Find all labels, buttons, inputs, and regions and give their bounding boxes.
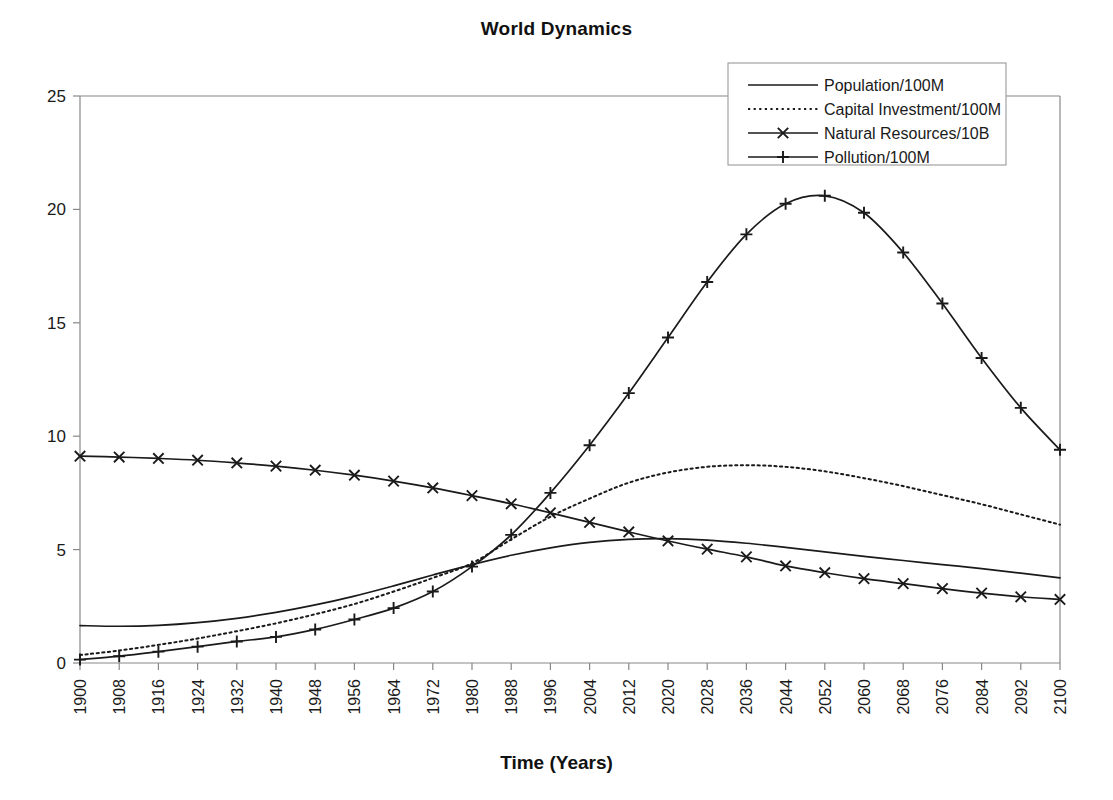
marker-plus — [231, 635, 243, 647]
marker-plus — [780, 198, 792, 210]
marker-plus — [348, 613, 360, 625]
marker-plus — [309, 623, 321, 635]
x-tick-label: 1988 — [503, 679, 520, 715]
x-tick-label: 2060 — [856, 679, 873, 715]
x-tick-label: 1996 — [542, 679, 559, 715]
x-axis-ticks: 1900190819161924193219401948195619641972… — [72, 663, 1069, 715]
x-tick-label: 1980 — [464, 679, 481, 715]
y-tick-label: 20 — [47, 200, 66, 219]
x-tick-label: 2044 — [778, 679, 795, 715]
x-tick-label: 2092 — [1013, 679, 1030, 715]
series-0 — [80, 539, 1060, 627]
marker-plus — [819, 190, 831, 202]
x-tick-label: 2100 — [1052, 679, 1069, 715]
marker-plus — [466, 561, 478, 573]
x-tick-label: 2084 — [974, 679, 991, 715]
marker-plus — [662, 332, 674, 344]
x-tick-label: 2068 — [895, 679, 912, 715]
x-tick-label: 2020 — [660, 679, 677, 715]
y-tick-label: 10 — [47, 427, 66, 446]
series-2 — [75, 451, 1065, 605]
series-line — [80, 195, 1060, 659]
marker-plus — [388, 602, 400, 614]
y-tick-label: 25 — [47, 87, 66, 106]
marker-plus — [427, 586, 439, 598]
x-axis-title: Time (Years) — [0, 752, 1113, 774]
data-series-layer — [74, 190, 1066, 666]
marker-plus — [936, 298, 948, 310]
legend-label-2[interactable]: Natural Resources/10B — [824, 125, 989, 142]
x-tick-label: 2012 — [621, 679, 638, 715]
x-tick-label: 1916 — [150, 679, 167, 715]
chart-legend[interactable]: Population/100MCapital Investment/100MNa… — [728, 63, 1006, 166]
legend-label-0[interactable]: Population/100M — [824, 77, 944, 94]
marker-plus — [270, 631, 282, 643]
x-tick-label: 1932 — [229, 679, 246, 715]
y-tick-label: 0 — [57, 654, 66, 673]
marker-plus — [152, 646, 164, 658]
y-tick-label: 15 — [47, 314, 66, 333]
legend-label-1[interactable]: Capital Investment/100M — [824, 101, 1001, 118]
marker-x — [584, 517, 594, 527]
series-line — [80, 465, 1060, 655]
x-tick-label: 2076 — [934, 679, 951, 715]
series-line — [80, 456, 1060, 599]
x-tick-label: 1940 — [268, 679, 285, 715]
x-tick-label: 1964 — [386, 679, 403, 715]
x-tick-label: 1972 — [425, 679, 442, 715]
plot-frame — [80, 96, 1060, 663]
x-tick-label: 1908 — [111, 679, 128, 715]
world-dynamics-chart: 0510152025 19001908191619241932194019481… — [0, 0, 1113, 800]
x-tick-label: 1956 — [346, 679, 363, 715]
marker-plus — [192, 641, 204, 653]
series-line — [80, 539, 1060, 627]
x-tick-label: 1924 — [190, 679, 207, 715]
x-tick-label: 2052 — [817, 679, 834, 715]
series-1 — [80, 465, 1060, 655]
x-tick-label: 1900 — [72, 679, 89, 715]
y-tick-label: 5 — [57, 541, 66, 560]
y-axis-ticks: 0510152025 — [47, 87, 80, 673]
marker-plus — [623, 387, 635, 399]
x-tick-label: 2036 — [738, 679, 755, 715]
x-tick-label: 2028 — [699, 679, 716, 715]
series-3 — [74, 190, 1066, 666]
legend-label-3[interactable]: Pollution/100M — [824, 149, 930, 166]
chart-page: World Dynamics 0510152025 19001908191619… — [0, 0, 1113, 800]
x-tick-label: 2004 — [582, 679, 599, 715]
marker-plus — [74, 654, 86, 666]
x-tick-label: 1948 — [307, 679, 324, 715]
